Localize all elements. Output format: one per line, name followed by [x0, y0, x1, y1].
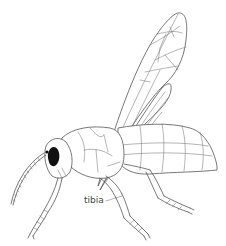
wasp-illustration: [0, 0, 226, 246]
tibia-label: tibia: [84, 196, 104, 205]
head: [45, 139, 72, 179]
front-leg: [28, 178, 62, 239]
insect-diagram: tibia: [0, 0, 226, 246]
abdomen: [118, 124, 217, 174]
tibia-leader-line: [106, 196, 122, 201]
middle-leg: [100, 176, 150, 240]
antenna: [11, 153, 46, 205]
